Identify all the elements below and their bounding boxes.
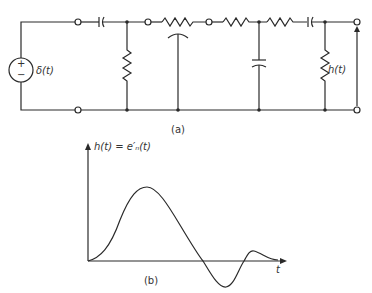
potentiometer-icon: [162, 18, 206, 26]
source-plus: +: [17, 58, 25, 69]
output-terminal-top: [354, 19, 360, 25]
wire-top-left: [21, 22, 75, 58]
wire-bottom-left: [21, 82, 75, 110]
caption-a: (a): [171, 124, 185, 135]
mid-terminal: [145, 19, 151, 25]
impulse-response-plot: h(t) = e′ₙ(t) t (b): [85, 141, 287, 287]
mid-terminal-2: [206, 19, 212, 25]
response-curve: [88, 187, 278, 287]
source-label: δ(t): [36, 65, 54, 76]
circuit-diagram: + − δ(t): [9, 17, 360, 135]
input-terminal-top: [75, 19, 81, 25]
caption-b: (b): [144, 275, 158, 286]
output-terminal-bottom: [354, 107, 360, 113]
y-axis-label: h(t) = e′ₙ(t): [94, 141, 151, 152]
input-terminal-bottom: [75, 107, 81, 113]
series-resistor-3-icon: [267, 18, 307, 26]
output-label: h(t): [328, 64, 346, 75]
source-minus: −: [17, 69, 25, 80]
figure: + − δ(t): [0, 0, 372, 293]
x-axis-label: t: [276, 264, 281, 275]
shunt-resistor-1-icon: [123, 22, 131, 110]
